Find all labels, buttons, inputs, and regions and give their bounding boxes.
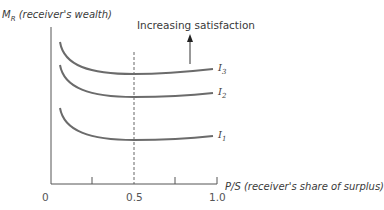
x-tick-label-1.0: 1.0 — [209, 191, 226, 203]
arrow-up-icon — [187, 34, 193, 42]
x-tick-label-0.5: 0.5 — [126, 191, 143, 203]
curve-i2 — [60, 65, 213, 97]
annotation-increasing-satisfaction: Increasing satisfaction — [137, 19, 255, 31]
curve-label-i1: I1 — [218, 129, 226, 143]
y-axis-label: MR (receiver's wealth) — [2, 9, 112, 23]
x-tick-label-0: 0 — [42, 191, 49, 203]
chart-canvas — [0, 0, 384, 210]
curve-label-i2: I2 — [218, 86, 226, 100]
x-axis-label: P/S (receiver's share of surplus) — [225, 181, 384, 192]
curve-label-i3: I3 — [218, 62, 226, 76]
curve-i1 — [60, 108, 213, 140]
